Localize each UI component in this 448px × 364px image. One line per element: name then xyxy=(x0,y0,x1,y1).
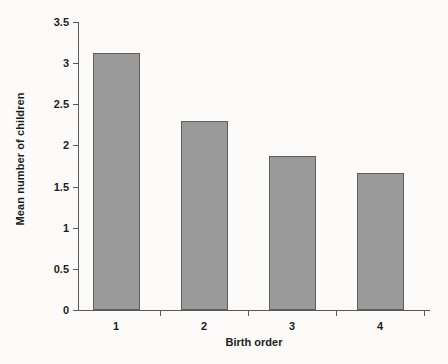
x-tick-mark xyxy=(336,311,337,316)
x-tick-mark xyxy=(424,311,425,316)
y-tick-mark xyxy=(73,63,78,64)
x-axis-line xyxy=(78,310,430,311)
y-tick-mark xyxy=(73,22,78,23)
x-tick-mark xyxy=(160,311,161,316)
bar xyxy=(93,53,140,310)
x-axis-title-label: Birth order xyxy=(226,336,283,348)
x-tick-mark xyxy=(248,311,249,316)
y-tick-mark xyxy=(73,145,78,146)
y-tick-label: 2.5 xyxy=(54,98,69,110)
y-axis-line xyxy=(78,22,79,311)
y-tick-label: 3 xyxy=(63,57,69,69)
y-axis-title: Mean number of children xyxy=(6,0,34,318)
y-tick-mark xyxy=(73,310,78,311)
y-tick-mark xyxy=(73,269,78,270)
x-tick-label: 3 xyxy=(289,320,295,332)
y-tick-label: 0.5 xyxy=(54,263,69,275)
y-axis-title-label: Mean number of children xyxy=(14,92,26,225)
y-tick-label: 2 xyxy=(63,139,69,151)
bar xyxy=(357,173,404,310)
bar xyxy=(269,156,316,310)
bar xyxy=(181,121,228,310)
x-axis-title: Birth order xyxy=(78,336,430,348)
y-tick-label: 0 xyxy=(63,304,69,316)
x-tick-label: 4 xyxy=(377,320,383,332)
x-tick-label: 1 xyxy=(113,320,119,332)
y-tick-mark xyxy=(73,104,78,105)
plot-area: 00.511.522.533.5 1234 xyxy=(78,22,430,310)
x-tick-label: 2 xyxy=(201,320,207,332)
y-tick-mark xyxy=(73,187,78,188)
y-tick-label: 1 xyxy=(63,222,69,234)
y-tick-label: 3.5 xyxy=(54,16,69,28)
bar-chart: Mean number of children 00.511.522.533.5… xyxy=(0,0,448,364)
y-tick-label: 1.5 xyxy=(54,181,69,193)
y-tick-mark xyxy=(73,228,78,229)
